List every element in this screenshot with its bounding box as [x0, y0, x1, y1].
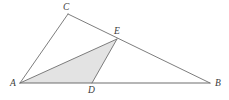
vertex-label-E: E [114, 27, 120, 37]
vertex-label-C: C [63, 3, 69, 13]
vertex-label-A: A [10, 79, 16, 89]
geometry-canvas [0, 0, 229, 100]
vertex-label-B: B [215, 79, 221, 89]
vertex-label-D: D [88, 86, 95, 96]
geometry-figure: A B C D E [0, 0, 229, 100]
